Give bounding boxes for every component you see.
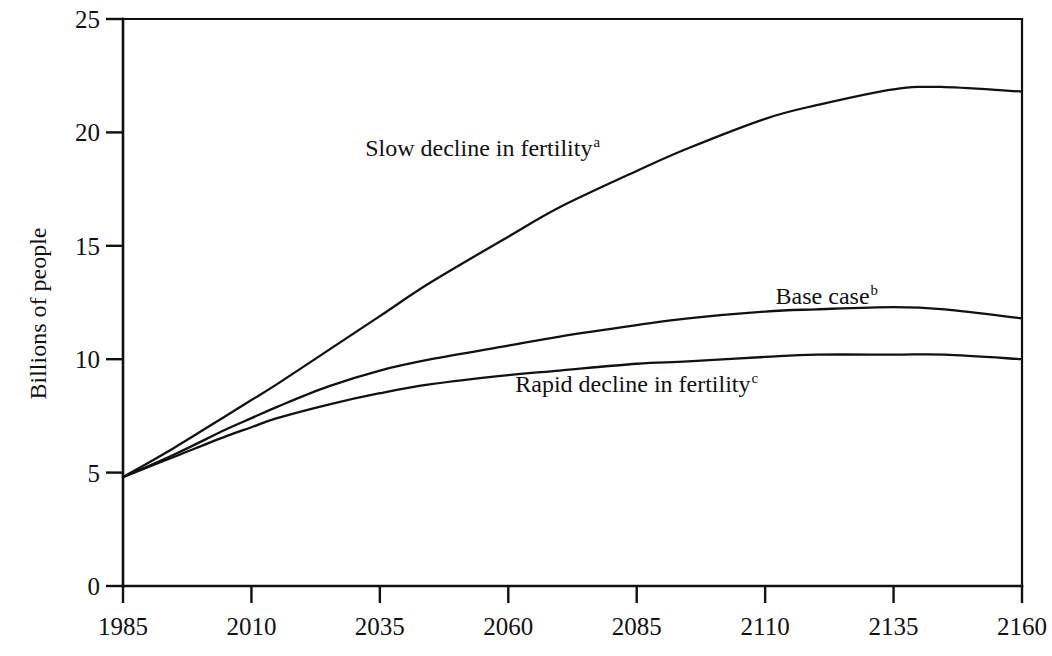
y-axis-tick-label: 15: [40, 233, 100, 258]
y-axis-tick-label: 0: [40, 574, 100, 599]
series-annotation-text: Slow decline in fertility: [365, 135, 592, 161]
chart-canvas: [0, 0, 1052, 656]
series-annotation-text: Base case: [776, 283, 870, 309]
x-axis-tick-label: 2035: [355, 614, 405, 639]
x-axis-tick-label: 2085: [612, 614, 662, 639]
x-axis-tick-label: 2060: [483, 614, 533, 639]
series-annotation: Rapid decline in fertilityc: [515, 372, 758, 396]
y-axis-tick-label: 20: [40, 120, 100, 145]
y-axis-tick-label: 5: [40, 460, 100, 485]
ticks-group: [106, 19, 1022, 603]
x-axis-tick-label: 2010: [226, 614, 276, 639]
population-projection-chart: Billions of people 0510152025 1985201020…: [0, 0, 1052, 656]
series-annotation: Slow decline in fertilitya: [365, 136, 600, 160]
y-axis-title: Billions of people: [25, 184, 52, 444]
x-axis-tick-label: 2110: [741, 614, 790, 639]
x-axis-tick-label: 1985: [98, 614, 148, 639]
series-annotation: Base caseb: [776, 284, 878, 308]
y-axis-tick-label: 10: [40, 347, 100, 372]
x-axis-tick-label: 2160: [997, 614, 1047, 639]
series-annotation-footnote: a: [592, 134, 600, 150]
axes-group: [123, 19, 1022, 586]
x-axis-tick-label: 2135: [869, 614, 919, 639]
series-annotation-text: Rapid decline in fertility: [515, 371, 750, 397]
series-annotation-footnote: b: [870, 282, 878, 298]
series-annotation-footnote: c: [751, 370, 759, 386]
y-axis-tick-label: 25: [40, 7, 100, 32]
